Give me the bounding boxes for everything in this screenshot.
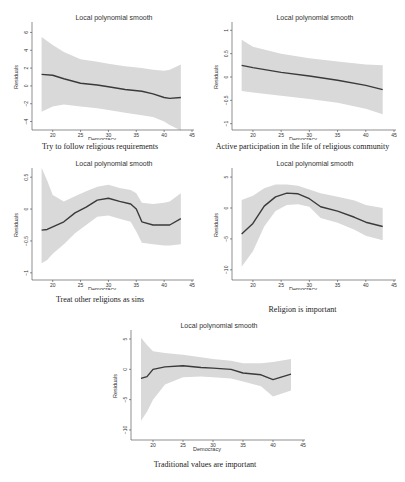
x-tick-label: 45 bbox=[189, 132, 195, 138]
confidence-band bbox=[42, 168, 181, 264]
y-tick-label: −2 bbox=[23, 101, 29, 107]
x-tick-label: 45 bbox=[391, 132, 397, 138]
x-axis-label: Democracy bbox=[88, 286, 116, 290]
x-tick-label: 25 bbox=[278, 282, 284, 288]
caption-4: Religion is important bbox=[200, 305, 405, 314]
x-tick-label: 20 bbox=[250, 132, 256, 138]
y-axis-label: Residuals bbox=[112, 374, 118, 398]
y-tick-label: −10 bbox=[122, 425, 128, 434]
y-tick-label: −4 bbox=[23, 118, 29, 124]
y-tick-label: −5 bbox=[223, 236, 229, 242]
x-tick-label: 45 bbox=[300, 442, 306, 448]
x-tick-label: 40 bbox=[363, 132, 369, 138]
y-axis-label: Residuals bbox=[213, 213, 219, 237]
x-tick-label: 40 bbox=[161, 132, 167, 138]
x-tick-label: 35 bbox=[134, 132, 140, 138]
x-tick-label: 20 bbox=[50, 282, 56, 288]
y-tick-label: −0.5 bbox=[23, 236, 29, 246]
y-tick-label: 0 bbox=[223, 75, 229, 78]
x-tick-label: 45 bbox=[391, 282, 397, 288]
x-axis-label: Democracy bbox=[289, 286, 317, 290]
chart-title: Local polynomial smooth bbox=[180, 322, 257, 330]
x-tick-label: 35 bbox=[335, 132, 341, 138]
y-tick-label: −10 bbox=[223, 265, 229, 274]
x-tick-label: 40 bbox=[270, 442, 276, 448]
x-tick-label: 25 bbox=[278, 132, 284, 138]
y-tick-label: 2 bbox=[23, 66, 29, 69]
y-tick-label: −0.5 bbox=[223, 95, 229, 105]
x-tick-label: 25 bbox=[78, 132, 84, 138]
x-tick-label: 35 bbox=[134, 282, 140, 288]
y-tick-label: 0.5 bbox=[223, 50, 229, 57]
caption-3: Treat other religions as sins bbox=[0, 295, 200, 304]
chart-title: Local polynomial smooth bbox=[276, 14, 353, 22]
y-tick-label: 0 bbox=[223, 206, 229, 209]
y-tick-label: 5 bbox=[122, 337, 128, 340]
x-tick-label: 35 bbox=[335, 282, 341, 288]
x-tick-label: 20 bbox=[150, 442, 156, 448]
chart-panel-4: Local polynomial smooth−10−5052025303540… bbox=[200, 160, 405, 290]
x-axis-label: Democracy bbox=[289, 136, 317, 140]
chart-title: Local polynomial smooth bbox=[75, 160, 152, 168]
y-axis-label: Residuals bbox=[13, 65, 19, 89]
x-axis-label: Democracy bbox=[88, 136, 116, 140]
confidence-band bbox=[42, 37, 181, 131]
y-tick-label: 5 bbox=[223, 175, 229, 178]
chart-panel-5: Local polynomial smooth−10−5052025303540… bbox=[95, 318, 315, 453]
y-axis-label: Residuals bbox=[13, 213, 19, 237]
confidence-band bbox=[242, 185, 383, 267]
x-tick-label: 40 bbox=[363, 282, 369, 288]
x-tick-label: 25 bbox=[78, 282, 84, 288]
x-axis-label: Democracy bbox=[193, 446, 221, 452]
chart-title: Local polynomial smooth bbox=[75, 14, 152, 22]
x-tick-label: 20 bbox=[250, 282, 256, 288]
x-tick-label: 20 bbox=[50, 132, 56, 138]
y-tick-label: 0 bbox=[122, 368, 128, 371]
x-tick-label: 40 bbox=[161, 282, 167, 288]
y-tick-label: 4 bbox=[23, 49, 29, 52]
chart-4: Local polynomial smooth−10−5052025303540… bbox=[200, 160, 405, 290]
y-tick-label: 0.5 bbox=[23, 173, 29, 180]
chart-panel-1: Local polynomial smooth−4−20246202530354… bbox=[0, 0, 200, 140]
y-tick-label: −1 bbox=[223, 121, 229, 127]
caption-1: Try to follow religious requirements bbox=[0, 142, 200, 151]
y-tick-label: 1 bbox=[223, 29, 229, 32]
y-axis-label: Residuals bbox=[213, 65, 219, 89]
x-tick-label: 45 bbox=[189, 282, 195, 288]
x-tick-label: 25 bbox=[180, 442, 186, 448]
chart-panel-2: Local polynomial smooth−1−0.500.51202530… bbox=[200, 0, 405, 140]
y-tick-label: 0 bbox=[23, 84, 29, 87]
y-tick-label: 6 bbox=[23, 31, 29, 34]
y-tick-label: 0 bbox=[23, 207, 29, 210]
chart-2: Local polynomial smooth−1−0.500.51202530… bbox=[200, 0, 405, 140]
x-tick-label: 35 bbox=[240, 442, 246, 448]
y-tick-label: −1 bbox=[23, 270, 29, 276]
chart-panel-3: Local polynomial smooth−1−0.500.52025303… bbox=[0, 160, 200, 290]
confidence-band bbox=[141, 338, 291, 421]
chart-1: Local polynomial smooth−4−20246202530354… bbox=[0, 0, 200, 140]
y-tick-label: −5 bbox=[122, 397, 128, 403]
chart-title: Local polynomial smooth bbox=[276, 160, 353, 168]
chart-3: Local polynomial smooth−1−0.500.52025303… bbox=[0, 160, 200, 290]
caption-2: Active participation in the life of reli… bbox=[200, 142, 405, 151]
chart-5: Local polynomial smooth−10−5052025303540… bbox=[95, 318, 315, 453]
caption-5: Traditional values are important bbox=[95, 460, 315, 469]
